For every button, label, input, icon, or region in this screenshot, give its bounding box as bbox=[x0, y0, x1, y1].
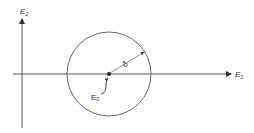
center-label: E0 bbox=[91, 93, 99, 102]
y-axis-label: E2 bbox=[20, 7, 28, 17]
radius-label: δ bbox=[121, 59, 130, 69]
x-axis-label: E1 bbox=[235, 70, 243, 80]
radius-line bbox=[110, 52, 144, 73]
diagram-canvas: E2 E1 E0 δ bbox=[0, 0, 254, 133]
center-leader-line bbox=[101, 78, 108, 94]
